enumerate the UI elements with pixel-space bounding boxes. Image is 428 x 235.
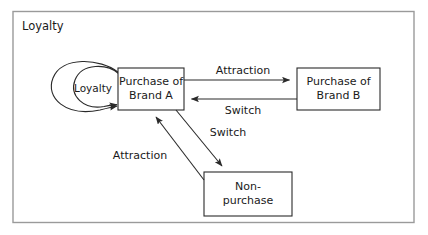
loyalty-flow-diagram: Loyalty Loyalty Purchase of Brand A Purc… xyxy=(0,0,428,235)
node-label-non-purchase-line2: purchase xyxy=(223,194,274,207)
node-label-brand-a-line1: Purchase of xyxy=(119,75,184,88)
edge-label-a-to-np: Switch xyxy=(210,126,246,139)
node-label-brand-b-line1: Purchase of xyxy=(306,75,371,88)
node-label-brand-b-line2: Brand B xyxy=(317,89,361,102)
frame-label: Loyalty xyxy=(22,19,64,33)
edge-label-b-to-a: Switch xyxy=(225,104,261,117)
diagram-canvas: Loyalty Loyalty Purchase of Brand A Purc… xyxy=(0,0,428,235)
edge-label-np-to-a: Attraction xyxy=(113,149,167,162)
loyalty-loop-label: Loyalty xyxy=(74,82,112,94)
node-label-brand-a-line2: Brand A xyxy=(129,89,173,102)
edge-label-a-to-b: Attraction xyxy=(216,64,270,77)
node-label-non-purchase-line1: Non- xyxy=(235,180,261,193)
